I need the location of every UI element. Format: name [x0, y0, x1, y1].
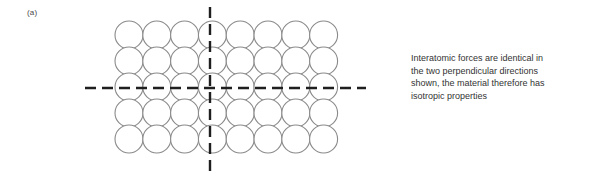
atom-circle: [226, 47, 254, 75]
figure-caption: Interatomic forces are identical inthe t…: [411, 52, 587, 102]
atom-circle: [198, 99, 226, 127]
atomic-lattice-diagram: [78, 0, 378, 185]
atom-circle: [115, 47, 143, 75]
panel-label: (a): [27, 8, 37, 18]
atom-circle: [226, 99, 254, 127]
atom-circle: [143, 125, 171, 153]
atom-circle: [143, 99, 171, 127]
atom-circle: [143, 21, 171, 49]
atom-circle: [254, 21, 282, 49]
atom-circle: [310, 47, 338, 75]
atom-circle: [171, 125, 199, 153]
atom-circle: [226, 125, 254, 153]
atom-circle: [254, 47, 282, 75]
atom-circle: [226, 21, 254, 49]
atom-circle: [171, 99, 199, 127]
atom-circle: [198, 21, 226, 49]
atom-circle: [310, 99, 338, 127]
atom-circle: [143, 47, 171, 75]
caption-line: isotropic properties: [411, 90, 587, 103]
atom-circle: [254, 125, 282, 153]
atom-circle: [171, 47, 199, 75]
atom-circle: [254, 99, 282, 127]
atom-circle: [171, 21, 199, 49]
atom-circle: [282, 47, 310, 75]
atom-circle: [310, 125, 338, 153]
lattice-svg: [78, 0, 378, 185]
caption-line: Interatomic forces are identical in: [411, 52, 587, 65]
atom-circle: [198, 125, 226, 153]
atom-circle: [282, 99, 310, 127]
atom-circle: [282, 125, 310, 153]
atom-circle: [198, 47, 226, 75]
caption-line: shown, the material therefore has: [411, 77, 587, 90]
atom-circle: [310, 21, 338, 49]
atom-circle: [115, 99, 143, 127]
atom-circle: [282, 21, 310, 49]
atom-circle: [115, 21, 143, 49]
caption-line: the two perpendicular directions: [411, 65, 587, 78]
atom-circle: [115, 125, 143, 153]
figure-root: (a) Interatomic forces are identical int…: [0, 0, 594, 185]
